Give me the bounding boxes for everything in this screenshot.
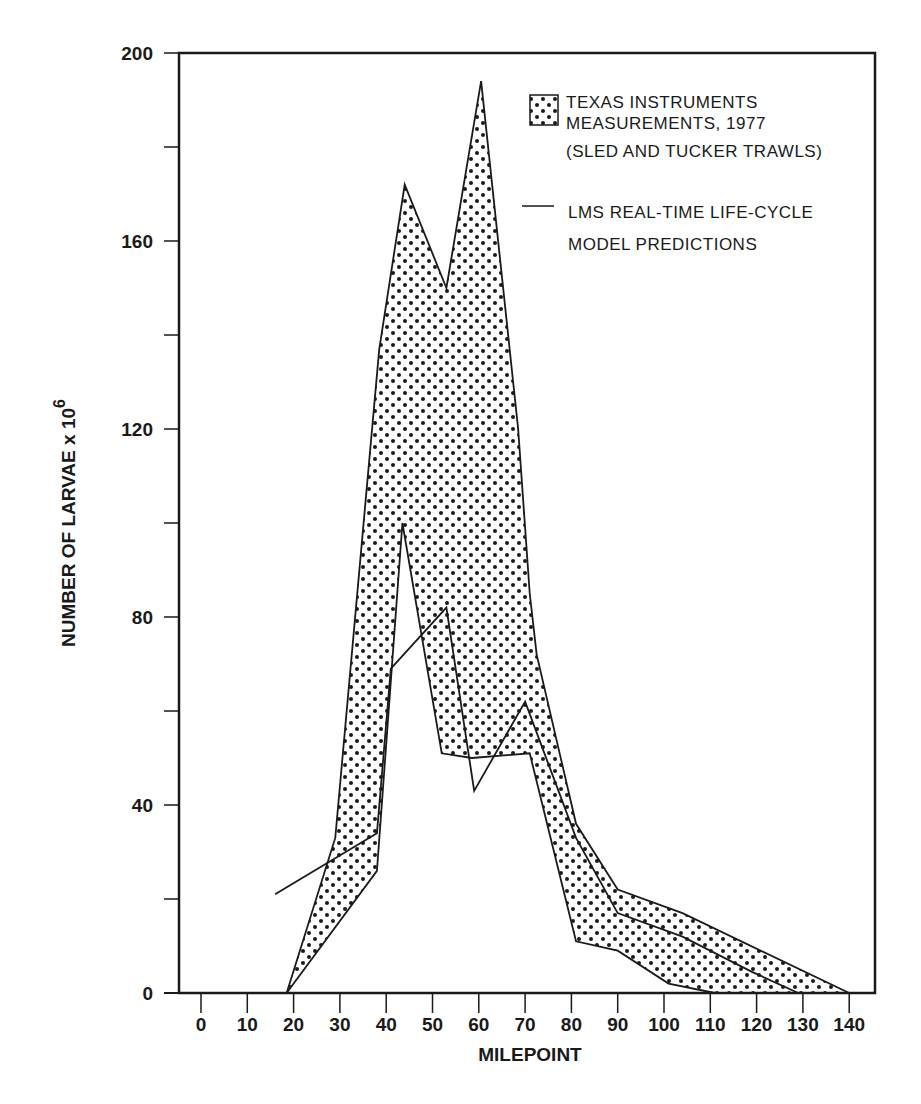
x-tick-label: 100 <box>648 1014 680 1035</box>
plot-frame <box>179 53 875 993</box>
legend-swatch-dotted <box>530 95 558 125</box>
svg-text:NUMBER OF LARVAE x 106: NUMBER OF LARVAE x 106 <box>51 399 79 647</box>
x-tick-label: 80 <box>561 1014 582 1035</box>
x-tick-label: 90 <box>607 1014 628 1035</box>
legend-entry-model-line2: MODEL PREDICTIONS <box>568 235 757 254</box>
y-tick-label: 40 <box>132 795 153 816</box>
y-tick-label: 0 <box>142 983 153 1004</box>
x-tick-label: 110 <box>695 1014 726 1035</box>
x-tick-label: 130 <box>787 1014 819 1035</box>
x-tick-label: 120 <box>741 1014 773 1035</box>
x-tick-label: 10 <box>237 1014 258 1035</box>
y-tick-label: 160 <box>121 231 153 252</box>
y-axis-title-exponent: 6 <box>51 399 68 408</box>
y-axis: 04080120160200 <box>121 43 179 1004</box>
x-axis-title: MILEPOINT <box>478 1044 582 1065</box>
x-tick-label: 50 <box>422 1014 443 1035</box>
legend: TEXAS INSTRUMENTS MEASUREMENTS, 1977 (SL… <box>522 93 822 254</box>
legend-entry-measurements-line1: TEXAS INSTRUMENTS <box>566 93 758 112</box>
x-tick-label: 0 <box>196 1014 207 1035</box>
x-tick-label: 70 <box>515 1014 536 1035</box>
legend-entry-measurements-line2: MEASUREMENTS, 1977 <box>566 114 766 133</box>
x-tick-label: 60 <box>468 1014 489 1035</box>
x-tick-label: 40 <box>376 1014 397 1035</box>
y-tick-label: 80 <box>132 607 153 628</box>
x-tick-label: 140 <box>833 1014 865 1035</box>
x-tick-label: 30 <box>329 1014 350 1035</box>
x-tick-label: 20 <box>283 1014 304 1035</box>
y-axis-title-group: NUMBER OF LARVAE x 106 <box>51 399 79 647</box>
y-axis-title: NUMBER OF LARVAE x 10 <box>58 408 79 647</box>
x-axis: 0102030405060708090100110120130140 <box>164 993 865 1035</box>
y-tick-label: 120 <box>121 419 153 440</box>
chart: 04080120160200 0102030405060708090100110… <box>0 0 921 1104</box>
legend-entry-measurements-line3: (SLED AND TUCKER TRAWLS) <box>566 142 822 161</box>
y-tick-label: 200 <box>121 43 153 64</box>
legend-entry-model-line1: LMS REAL-TIME LIFE-CYCLE <box>568 203 813 222</box>
